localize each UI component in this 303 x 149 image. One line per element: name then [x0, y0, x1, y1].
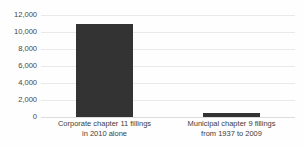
y-tick-label: 10,000 — [0, 28, 37, 36]
bar — [203, 113, 260, 117]
y-tick-label: 0 — [0, 113, 37, 121]
bar-chart: 12,00010,0008,0006,0004,0002,0000 Corpor… — [0, 0, 303, 149]
y-tick-label: 4,000 — [0, 79, 37, 87]
y-tick-label: 8,000 — [0, 45, 37, 53]
x-axis-label-line: Corporate chapter 11 fillings — [41, 119, 168, 129]
y-tick-label: 6,000 — [0, 62, 37, 70]
x-axis-label-line: Municipal chapter 9 fillings — [168, 119, 295, 129]
y-tick-label: 2,000 — [0, 96, 37, 104]
bars-layer — [41, 15, 295, 117]
x-axis-label: Municipal chapter 9 fillingsfrom 1937 to… — [168, 119, 295, 138]
y-tick-label: 12,000 — [0, 11, 37, 19]
gridline — [41, 117, 295, 118]
x-axis-labels: Corporate chapter 11 fillingsin 2010 alo… — [41, 119, 295, 143]
bar — [76, 24, 133, 118]
x-axis-label-line: from 1937 to 2009 — [168, 129, 295, 139]
x-axis-label-line: in 2010 alone — [41, 129, 168, 139]
x-axis-label: Corporate chapter 11 fillingsin 2010 alo… — [41, 119, 168, 138]
y-axis: 12,00010,0008,0006,0004,0002,0000 — [0, 0, 37, 149]
